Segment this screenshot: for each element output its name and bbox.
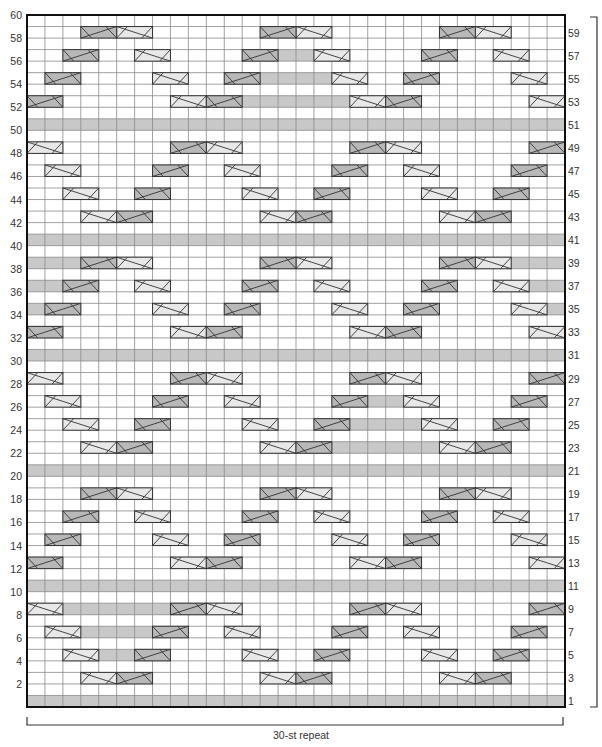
shaded-stitch <box>332 96 350 108</box>
shaded-stitch <box>547 280 565 292</box>
light-cable-icon <box>332 73 368 85</box>
row-label-odd: 39 <box>568 257 588 269</box>
dark-cable-icon <box>27 557 63 569</box>
shaded-stitch <box>45 280 63 292</box>
dark-cable-icon <box>153 165 189 177</box>
row-label-even: 2 <box>2 678 22 690</box>
light-cable-icon <box>332 303 368 315</box>
shaded-stitch <box>45 257 63 269</box>
dark-cable-icon <box>117 672 153 684</box>
dark-cable-icon <box>422 511 458 523</box>
row-label-odd: 3 <box>568 672 588 684</box>
dark-cable-icon <box>511 626 547 638</box>
shaded-stitch <box>81 603 99 615</box>
row-repeat-bracket <box>590 17 597 707</box>
shaded-stitch <box>153 603 171 615</box>
light-cable-icon <box>314 50 350 62</box>
shaded-stitch <box>99 603 117 615</box>
row-label-odd: 7 <box>568 626 588 638</box>
light-cable-icon <box>475 257 511 269</box>
light-cable-icon <box>242 419 278 431</box>
dark-cable-icon <box>314 649 350 661</box>
row-label-odd: 21 <box>568 465 588 477</box>
shaded-stitch <box>547 303 565 315</box>
dark-cable-icon <box>332 165 368 177</box>
light-cable-icon <box>529 326 565 338</box>
light-cable-icon <box>493 280 529 292</box>
stitch-repeat-bracket <box>27 717 563 725</box>
light-cable-icon <box>439 672 475 684</box>
dark-cable-icon <box>296 442 332 454</box>
row-label-odd: 33 <box>568 326 588 338</box>
row-label-even: 36 <box>2 286 22 298</box>
row-label-even: 40 <box>2 240 22 252</box>
shaded-stitch <box>135 626 153 638</box>
row-label-even: 42 <box>2 217 22 229</box>
dark-cable-icon <box>404 303 440 315</box>
row-label-odd: 59 <box>568 27 588 39</box>
shaded-stitch <box>404 419 422 431</box>
row-label-odd: 43 <box>568 211 588 223</box>
light-cable-icon <box>81 442 117 454</box>
dark-cable-icon <box>493 419 529 431</box>
shaded-stitch <box>260 73 278 85</box>
dark-cable-icon <box>439 27 475 39</box>
dark-cable-icon <box>529 603 565 615</box>
dark-cable-icon <box>170 142 206 154</box>
row-label-even: 50 <box>2 124 22 136</box>
dark-cable-icon <box>27 96 63 108</box>
row-label-even: 58 <box>2 32 22 44</box>
dark-cable-icon <box>350 142 386 154</box>
dark-cable-icon <box>45 303 81 315</box>
dark-cable-icon <box>117 211 153 223</box>
dark-cable-icon <box>117 442 153 454</box>
light-cable-icon <box>45 165 81 177</box>
dark-cable-icon <box>386 326 422 338</box>
dark-cable-icon <box>242 50 278 62</box>
shaded-stitch <box>350 442 368 454</box>
dark-cable-icon <box>386 96 422 108</box>
dark-cable-icon <box>81 257 117 269</box>
row-label-odd: 37 <box>568 280 588 292</box>
row-label-odd: 47 <box>568 165 588 177</box>
shaded-stitch <box>260 96 278 108</box>
dark-cable-icon <box>493 649 529 661</box>
shaded-stitch <box>314 96 332 108</box>
light-cable-icon <box>332 534 368 546</box>
row-label-odd: 55 <box>568 73 588 85</box>
row-label-even: 48 <box>2 147 22 159</box>
dark-cable-icon <box>27 326 63 338</box>
shaded-stitch <box>135 603 153 615</box>
light-cable-icon <box>81 211 117 223</box>
shaded-stitch <box>350 419 368 431</box>
dark-cable-icon <box>135 649 171 661</box>
shaded-stitch <box>27 303 45 315</box>
light-cable-icon <box>224 165 260 177</box>
row-label-odd: 51 <box>568 119 588 131</box>
dark-cable-icon <box>511 396 547 408</box>
shaded-stitch <box>242 96 260 108</box>
row-label-even: 4 <box>2 655 22 667</box>
light-cable-icon <box>422 649 458 661</box>
light-cable-icon <box>117 27 153 39</box>
shaded-stitch <box>278 73 296 85</box>
row-label-even: 46 <box>2 170 22 182</box>
dark-cable-icon <box>260 488 296 500</box>
row-label-even: 32 <box>2 332 22 344</box>
dark-cable-icon <box>439 488 475 500</box>
shaded-stitch <box>81 626 99 638</box>
light-cable-icon <box>135 511 171 523</box>
row-label-even: 22 <box>2 447 22 459</box>
row-label-odd: 1 <box>568 695 588 707</box>
row-label-odd: 27 <box>568 396 588 408</box>
light-cable-icon <box>386 373 422 385</box>
light-cable-icon <box>170 557 206 569</box>
row-label-even: 44 <box>2 194 22 206</box>
light-cable-icon <box>63 649 99 661</box>
dark-cable-icon <box>386 557 422 569</box>
light-cable-icon <box>27 603 63 615</box>
shaded-stitch <box>332 442 350 454</box>
row-label-even: 60 <box>2 9 22 21</box>
light-cable-icon <box>350 557 386 569</box>
dark-cable-icon <box>529 142 565 154</box>
